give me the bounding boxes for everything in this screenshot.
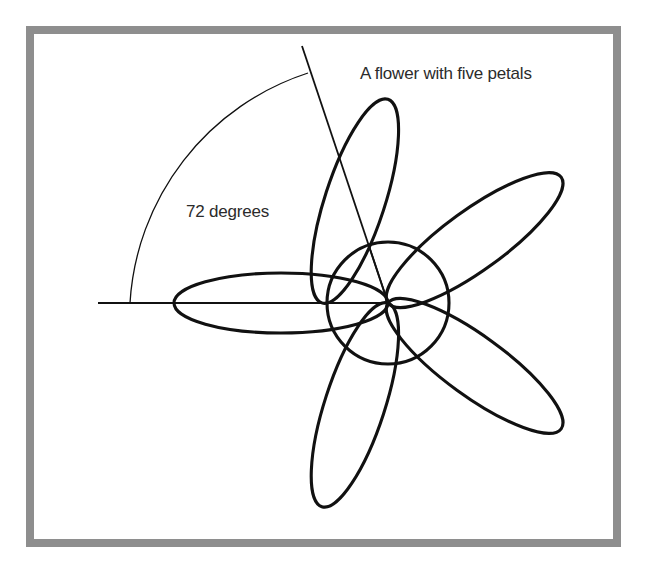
angle-measured-ray-overlay	[369, 246, 388, 303]
page-title: A flower with five petals	[360, 64, 532, 83]
flower-diagram-canvas: A flower with five petals 72 degrees	[0, 0, 661, 576]
petal-bottom	[293, 294, 416, 516]
petal-upper-left	[293, 90, 416, 312]
figure-root: A flower with five petals 72 degrees	[0, 0, 661, 576]
petal-right-upper	[370, 153, 578, 327]
angle-label: 72 degrees	[186, 202, 269, 221]
petal-lower-right	[370, 279, 578, 453]
angle-arc	[130, 73, 308, 303]
